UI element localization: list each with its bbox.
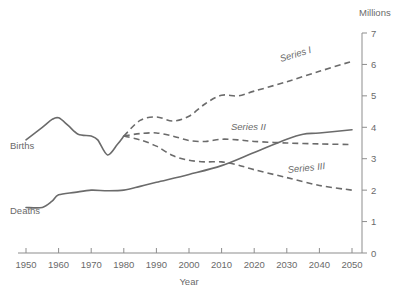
y-tick-label: 4 — [371, 122, 376, 133]
x-tick-label: 2020 — [244, 259, 265, 270]
chart-labels: BirthsDeathsSeries ISeries IISeries IIIY… — [10, 7, 391, 287]
series-line-births — [26, 117, 124, 155]
x-tick-label: 2040 — [309, 259, 330, 270]
x-tick-label: 1950 — [15, 259, 36, 270]
series-3-label: Series III — [287, 160, 326, 175]
x-tick-label: 2050 — [341, 259, 362, 270]
chart-container: 0123456719501960197019801990200020102020… — [0, 0, 409, 293]
x-tick-label: 1990 — [146, 259, 167, 270]
deaths-label: Deaths — [10, 205, 40, 216]
series-1-label: Series I — [278, 44, 312, 64]
axes: 0123456719501960197019801990200020102020… — [15, 28, 376, 271]
y-tick-label: 3 — [371, 153, 376, 164]
x-axis-title: Year — [179, 276, 198, 287]
y-tick-label: 6 — [371, 59, 376, 70]
y-tick-label: 2 — [371, 185, 376, 196]
births-label: Births — [10, 140, 35, 151]
x-tick-label: 2010 — [211, 259, 232, 270]
x-tick-label: 1970 — [81, 259, 102, 270]
series-lines — [26, 61, 352, 208]
y-tick-label: 0 — [371, 248, 376, 259]
series-line-series-ii — [124, 133, 352, 145]
x-tick-label: 2000 — [178, 259, 199, 270]
x-tick-label: 1980 — [113, 259, 134, 270]
y-tick-label: 7 — [371, 28, 376, 39]
x-tick-label: 1960 — [48, 259, 69, 270]
y-axis-unit-label: Millions — [359, 7, 391, 18]
y-tick-label: 1 — [371, 216, 376, 227]
series-2-label: Series II — [231, 121, 266, 132]
y-tick-label: 5 — [371, 90, 376, 101]
line-chart: 0123456719501960197019801990200020102020… — [0, 0, 409, 293]
x-tick-label: 2030 — [276, 259, 297, 270]
